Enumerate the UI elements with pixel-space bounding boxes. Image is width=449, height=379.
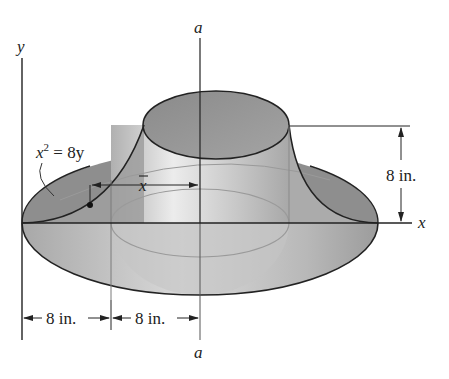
bottom-left-arrow-left bbox=[23, 315, 33, 321]
centroid-point bbox=[87, 202, 93, 208]
axis-a-top-label: a bbox=[194, 18, 203, 37]
curve-equation-label: x2 = 8y bbox=[35, 141, 85, 162]
y-axis-label: y bbox=[15, 37, 25, 56]
axis-a-bottom-label: a bbox=[194, 343, 203, 362]
xbar-label: x bbox=[138, 176, 147, 195]
bottom-left-arrow-right bbox=[100, 315, 110, 321]
height-arrow-bottom bbox=[398, 212, 404, 222]
height-arrow-top bbox=[398, 127, 404, 137]
top-ellipse bbox=[143, 91, 289, 159]
height-dimension-label: 8 in. bbox=[386, 166, 416, 185]
x-axis-label: x bbox=[417, 213, 426, 232]
bottom-right-arrow-right bbox=[189, 315, 199, 321]
bottom-left-dimension-label: 8 in. bbox=[46, 309, 76, 328]
bottom-right-arrow-left bbox=[112, 315, 122, 321]
solid-of-revolution-diagram: y a a x x2 = 8y x 8 in. 8 in. 8 in. bbox=[0, 0, 449, 379]
bottom-right-dimension-label: 8 in. bbox=[135, 309, 165, 328]
